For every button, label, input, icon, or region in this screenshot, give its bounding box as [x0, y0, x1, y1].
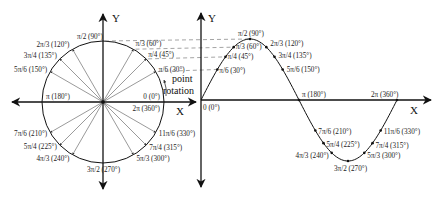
sine-angle-label: 5π/6 (150°): [287, 66, 321, 74]
radius-spoke: [73, 102, 104, 155]
sine-angle-label: 2π (360°): [371, 91, 399, 99]
circle-angle-label: π/4 (45°): [148, 51, 174, 59]
sine-angle-label: 7π/6 (210°): [318, 128, 352, 136]
radius-spoke: [103, 59, 146, 102]
circle-angle-label: 4π/3 (240°): [36, 155, 70, 163]
sine-angle-label: π/2 (90°): [238, 30, 264, 38]
sine-wave-graph: Y X 0 (0°)π/6 (30°)π/4 (45°)π/3 (60°)π/2…: [201, 12, 431, 187]
right-y-axis-label: Y: [208, 12, 216, 24]
sine-point: [371, 142, 374, 145]
circle-angle-label: 11π/6 (330°): [159, 130, 196, 138]
sine-point: [265, 46, 268, 49]
sine-angle-label: 2π/3 (120°): [270, 40, 304, 48]
circle-angle-label: 7π/4 (315°): [149, 144, 183, 152]
sine-angle-label: π/3 (60°): [236, 43, 262, 51]
sine-point: [363, 152, 366, 155]
sine-point: [298, 99, 301, 102]
unit-circle-sine-diagram: Y X π/2 (90°)π/3 (60°)π/4 (45°)π/6 (30°)…: [0, 0, 440, 197]
sine-angle-label: 3π/2 (270°): [334, 165, 368, 173]
circle-angle-label: 5π/4 (225°): [24, 143, 58, 151]
radius-spoke: [73, 49, 104, 102]
sine-point: [330, 152, 333, 155]
sine-angle-label: 4π/3 (240°): [296, 152, 330, 160]
origin-point: [101, 100, 105, 104]
unit-circle: Y X π/2 (90°)π/3 (60°)π/4 (45°)π/6 (30°)…: [12, 12, 196, 189]
sine-point: [281, 68, 284, 71]
sine-angle-label: 3π/4 (135°): [279, 52, 313, 60]
projection-dash: [105, 39, 250, 41]
sine-angle-label: 5π/4 (225°): [327, 141, 361, 149]
circle-angle-label: 3π/4 (135°): [24, 52, 58, 60]
sine-angle-label: π (180°): [302, 91, 326, 99]
sine-angle-label: 7π/4 (315°): [376, 142, 410, 150]
sine-point: [249, 38, 252, 41]
sine-point: [347, 160, 350, 163]
sine-point: [232, 46, 235, 49]
circle-angle-label: 5π/6 (150°): [14, 66, 48, 74]
sine-angle-label: π/4 (45°): [228, 53, 254, 61]
left-y-axis-label: Y: [112, 12, 120, 24]
annotation-rotation: rotation: [163, 85, 194, 96]
circle-angle-label: π/3 (60°): [136, 40, 162, 48]
circle-angle-label: 7π/6 (210°): [14, 130, 48, 138]
right-x-axis-label: X: [410, 104, 418, 116]
circle-angle-label: 3π/2 (270°): [87, 166, 121, 174]
sine-angle-label: 0 (0°): [203, 104, 220, 112]
sine-angle-label: 11π/6 (330°): [384, 128, 421, 136]
circle-angle-label: 2π (360°): [133, 105, 161, 113]
sine-point: [273, 56, 276, 59]
sine-angle-labels: 0 (0°)π/6 (30°)π/4 (45°)π/3 (60°)π/2 (90…: [203, 30, 421, 173]
circle-angle-label: 5π/3 (300°): [137, 155, 171, 163]
circle-angle-labels: π/2 (90°)π/3 (60°)π/4 (45°)π/6 (30°)0 (0…: [14, 33, 196, 174]
sine-point: [379, 129, 382, 132]
sine-point: [216, 68, 219, 71]
radius-spoke: [103, 49, 134, 102]
sine-point: [396, 99, 399, 102]
radius-spoke: [103, 102, 134, 155]
radius-spoke: [50, 102, 103, 133]
circle-angle-label: 2π/3 (120°): [36, 41, 70, 49]
sine-point: [224, 56, 227, 59]
circle-angle-label: π/2 (90°): [77, 33, 103, 41]
circle-angle-label: π (180°): [46, 93, 70, 101]
sine-point: [322, 142, 325, 145]
sine-angle-label: 5π/3 (300°): [367, 152, 401, 160]
radius-spoke: [60, 102, 103, 145]
circle-angle-label: 0 (0°): [143, 93, 160, 101]
sine-angle-label: π/6 (30°): [219, 67, 245, 75]
sine-point: [314, 129, 317, 132]
annotation-point: point: [172, 73, 193, 84]
left-x-axis-label: X: [176, 105, 184, 117]
